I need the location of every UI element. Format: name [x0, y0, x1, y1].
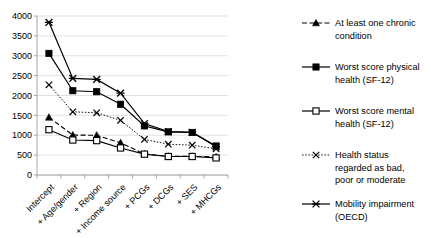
legend-label: Worst score physical: [335, 62, 420, 72]
legend: At least one chronicconditionWorst score…: [302, 18, 420, 222]
x-axis-labels: Intercept+ Age/gender+ Region+ Income so…: [24, 182, 223, 237]
y-axis-labels: 05001000150020002500300035004000: [12, 11, 32, 180]
line-chart: 05001000150020002500300035004000Intercep…: [0, 0, 431, 238]
marker-square-open: [94, 138, 100, 144]
legend-label: Health status: [335, 150, 389, 160]
legend-label: Mobility impairment: [335, 199, 415, 209]
marker-square-filled: [46, 50, 52, 56]
legend-label: regarded as bad,: [335, 163, 404, 173]
marker-square-filled: [117, 101, 123, 107]
legend-item-2[interactable]: Worst score physicalhealth (SF-12): [302, 62, 420, 85]
marker-square-open: [46, 127, 52, 133]
y-tick-label: 1500: [12, 111, 32, 121]
marker-square-open: [117, 145, 123, 151]
legend-item-3[interactable]: Worst score mentalhealth (SF-12): [302, 106, 414, 128]
marker-square-open: [165, 153, 171, 159]
series-line: [49, 22, 216, 146]
legend-label: Worst score mental: [335, 106, 414, 116]
marker-square-open: [189, 153, 195, 159]
legend-label: condition: [335, 31, 372, 41]
marker-x: [141, 136, 147, 142]
legend-label: At least one chronic: [335, 18, 416, 28]
marker-star: [312, 201, 320, 208]
marker-square-open: [70, 137, 76, 143]
legend-label: health (SF-12): [335, 75, 394, 85]
marker-x: [70, 109, 76, 115]
x-category-label: + DCGs: [146, 182, 176, 212]
marker-star: [45, 19, 53, 26]
y-tick-label: 2500: [12, 71, 32, 81]
x-tickmarks: [37, 175, 228, 179]
marker-square-open: [313, 108, 319, 114]
marker-square-filled: [313, 64, 319, 70]
y-tick-label: 3500: [12, 31, 32, 41]
marker-triangle: [45, 114, 52, 120]
y-tick-label: 4000: [12, 11, 32, 21]
legend-label: health (SF-12): [335, 119, 394, 129]
marker-square-filled: [94, 89, 100, 95]
legend-label: poor or moderate: [335, 175, 405, 185]
y-tick-label: 1000: [12, 130, 32, 140]
y-tick-label: 3000: [12, 51, 32, 61]
series-5: [45, 19, 220, 150]
marker-x: [46, 82, 52, 88]
y-tick-label: 2000: [12, 91, 32, 101]
marker-square-filled: [70, 88, 76, 94]
marker-square-open: [141, 151, 147, 157]
marker-star: [69, 75, 77, 82]
y-tick-label: 500: [17, 150, 32, 160]
legend-item-1[interactable]: At least one chroniccondition: [302, 18, 416, 41]
marker-x: [117, 117, 123, 123]
legend-item-5[interactable]: Mobility impairment(OECD): [302, 199, 415, 222]
legend-label: (OECD): [335, 212, 368, 222]
chart-container: 05001000150020002500300035004000Intercep…: [0, 0, 431, 238]
y-tick-label: 0: [27, 170, 32, 180]
marker-square-open: [213, 155, 219, 161]
marker-star: [93, 76, 101, 83]
legend-item-4[interactable]: Health statusregarded as bad,poor or mod…: [302, 150, 405, 185]
